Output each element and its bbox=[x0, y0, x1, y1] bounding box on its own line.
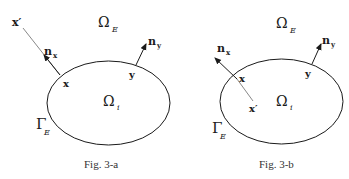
label-n-y-sub: y bbox=[156, 41, 162, 50]
normal-ny-arrow bbox=[312, 44, 321, 64]
normal-nx-arrow bbox=[44, 55, 60, 75]
label-omega-e: Ω bbox=[98, 14, 110, 30]
normal-ny-arrow bbox=[136, 44, 146, 65]
label-omega-i: Ω bbox=[103, 93, 115, 109]
normal-nx-arrow bbox=[215, 58, 237, 79]
label-omega-i-sub: i bbox=[117, 103, 120, 112]
label-n-x-sub: x bbox=[53, 51, 58, 60]
label-n-y: n bbox=[322, 34, 330, 47]
caption-fig-3a: Fig. 3-a bbox=[84, 158, 118, 170]
label-n-x-sub: x bbox=[226, 48, 231, 57]
label-gamma-e-sub: E bbox=[43, 128, 50, 137]
label-n-x: n bbox=[217, 42, 225, 55]
caption-fig-3b: Fig. 3-b bbox=[259, 158, 294, 170]
label-n-x: n bbox=[44, 45, 52, 58]
label-y: y bbox=[128, 69, 136, 80]
label-x-prime: x′ bbox=[12, 16, 22, 29]
figure-3b: Ω E n x n y x y x′ Ω i Γ E Fig. 3-b bbox=[212, 15, 343, 170]
label-y: y bbox=[304, 68, 312, 79]
label-gamma-e-sub: E bbox=[219, 132, 226, 141]
label-omega-i: Ω bbox=[276, 93, 288, 109]
label-n-y-sub: y bbox=[330, 40, 336, 49]
label-x: x bbox=[239, 73, 246, 84]
diagram-canvas: x′ Ω E n x n y x y Ω i Γ E Fig. 3-a Ω E … bbox=[0, 0, 349, 179]
figure-3a: x′ Ω E n x n y x y Ω i Γ E Fig. 3-a bbox=[12, 14, 170, 170]
label-n-y: n bbox=[148, 35, 156, 48]
label-omega-i-sub: i bbox=[290, 103, 293, 112]
label-omega-e: Ω bbox=[276, 15, 288, 31]
label-omega-e-sub: E bbox=[289, 26, 296, 35]
label-x-prime: x′ bbox=[249, 103, 258, 114]
label-x: x bbox=[63, 78, 70, 89]
label-omega-e-sub: E bbox=[111, 25, 118, 34]
